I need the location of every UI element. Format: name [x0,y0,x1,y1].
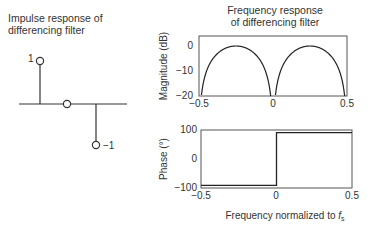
phase-ytick-100: 100 [180,124,197,135]
stem-marker-n0 [36,57,43,64]
mag-ytick-minus10: −10 [176,65,193,76]
mag-ylabel: Magnitude (dB) [158,32,169,100]
mag-xtick-minus05: −0.5 [189,98,209,109]
stem-label-minus1: −1 [103,140,115,151]
frequency-xlabel: Frequency normalized to fs [225,210,345,222]
magnitude-plot: 0 −10 −20 −0.5 0 0.5 Magnitude (dB) [158,32,354,109]
mag-xtick-05: 0.5 [340,98,354,109]
mag-ytick-0: 0 [187,40,193,51]
phase-ylabel: Phase (°) [158,138,169,180]
stem-marker-n1 [63,100,70,107]
stem-marker-n2 [92,141,99,148]
phase-plot: 100 0 −100 −0.5 0 0.5 Phase (°) Frequenc… [158,124,359,222]
impulse-stem-plot [19,57,127,148]
phase-curve [201,133,352,186]
phase-xtick-minus05: −0.5 [191,190,211,201]
phase-ytick-0: 0 [191,153,197,164]
magnitude-axes-box [199,36,347,96]
xlabel-subscript-s: s [341,215,345,222]
magnitude-curve [201,46,344,96]
mag-xtick-0: 0 [270,98,276,109]
phase-xtick-05: 0.5 [345,190,359,201]
phase-xtick-0: 0 [273,190,279,201]
xlabel-text: Frequency normalized to [225,210,338,221]
figure-canvas: 1 −1 0 −10 −20 −0.5 0 0.5 Magnitude (dB)… [0,0,373,232]
stem-label-1: 1 [28,53,34,64]
